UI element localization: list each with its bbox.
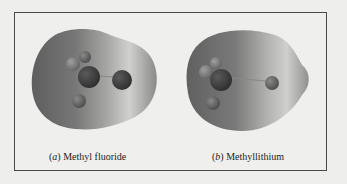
hydrogen-atom [66, 57, 80, 71]
carbon-atom [210, 69, 232, 91]
hydrogen-atom [210, 57, 222, 69]
methyl-fluoride-potential-map [15, 13, 170, 148]
panel-methyl-fluoride: (a) Methyl fluoride [15, 13, 170, 170]
hydrogen-atom [79, 51, 91, 63]
fluorine-atom [112, 70, 132, 90]
lithium-atom [265, 76, 279, 90]
hydrogen-atom [72, 94, 86, 108]
potential-surface [187, 30, 309, 131]
figure-frame: (a) Methyl fluoride (b [14, 12, 327, 171]
methyllithium-potential-map [170, 13, 326, 148]
caption-b: (b) Methyllithium [212, 151, 284, 162]
carbon-atom [78, 66, 100, 88]
hydrogen-atom [206, 96, 220, 110]
caption-a: (a) Methyl fluoride [49, 151, 126, 162]
caption-text: Methyllithium [226, 151, 284, 162]
panel-methyllithium: (b) Methyllithium [170, 13, 326, 170]
caption-text: Methyl fluoride [63, 151, 126, 162]
